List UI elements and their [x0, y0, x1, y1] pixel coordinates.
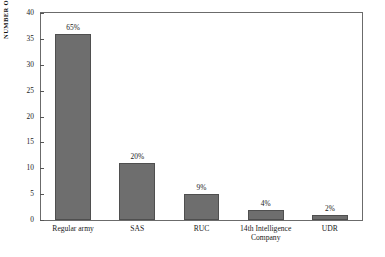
y-tick-label: 20 — [8, 112, 34, 121]
bar-value-label: 9% — [182, 183, 222, 192]
bar-value-label: 2% — [310, 204, 350, 213]
y-tick-label: 0 — [8, 215, 34, 224]
x-label-line: RUC — [169, 224, 233, 233]
y-tick-label: 35 — [8, 34, 34, 43]
y-tick-mark — [40, 220, 44, 221]
bar — [184, 194, 220, 220]
x-axis-label: RUC — [169, 224, 233, 233]
x-label-line: SAS — [105, 224, 169, 233]
x-label-line: 14th Intelligence — [234, 224, 298, 233]
bar — [248, 210, 284, 220]
bar-chart: NUMBER OF DEATHS 0510152025303540 65%20%… — [0, 0, 385, 257]
x-axis-label: Regular army — [41, 224, 105, 233]
y-tick-label: 25 — [8, 86, 34, 95]
y-tick-label: 40 — [8, 8, 34, 17]
x-axis-label: SAS — [105, 224, 169, 233]
bar — [119, 163, 155, 220]
y-tick-label: 5 — [8, 189, 34, 198]
bar — [312, 215, 348, 220]
x-label-line: Company — [234, 233, 298, 242]
y-tick-label: 30 — [8, 60, 34, 69]
bars-layer: 65%20%9%4%2% — [41, 13, 362, 220]
y-tick-label: 15 — [8, 137, 34, 146]
x-label-line: Regular army — [41, 224, 105, 233]
x-label-line: UDR — [298, 224, 362, 233]
bar-value-label: 65% — [53, 23, 93, 32]
bar — [55, 34, 91, 220]
bar-value-label: 20% — [117, 152, 157, 161]
y-tick-label: 10 — [8, 163, 34, 172]
x-axis-label: 14th IntelligenceCompany — [234, 224, 298, 243]
bar-value-label: 4% — [246, 199, 286, 208]
x-axis-label: UDR — [298, 224, 362, 233]
